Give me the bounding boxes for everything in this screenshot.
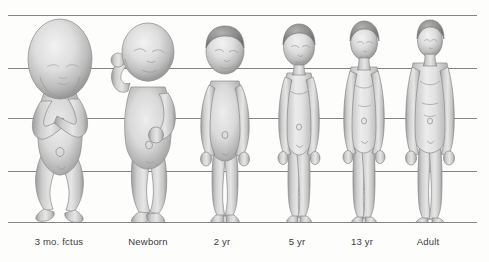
figure-adult: [398, 15, 462, 222]
stage-labels: 3 mo. fctus Newborn 2 yr 5 yr 13 yr Adul…: [0, 236, 489, 252]
figure-5-yr: [268, 15, 330, 222]
label-3-mo-fetus: 3 mo. fctus: [35, 236, 84, 247]
figure-2-yr: [190, 15, 260, 222]
label-newborn: Newborn: [128, 236, 167, 247]
body-proportions-figure: 3 mo. fctus Newborn 2 yr 5 yr 13 yr Adul…: [0, 0, 489, 262]
label-adult: Adult: [417, 236, 440, 247]
gridline-baseline: [8, 222, 477, 223]
figure-3-mo-fetus: [14, 15, 106, 222]
label-2-yr: 2 yr: [214, 236, 231, 247]
figure-13-yr: [334, 15, 394, 222]
figure-newborn: [106, 15, 192, 222]
label-5-yr: 5 yr: [289, 236, 306, 247]
label-13-yr: 13 yr: [351, 236, 373, 247]
